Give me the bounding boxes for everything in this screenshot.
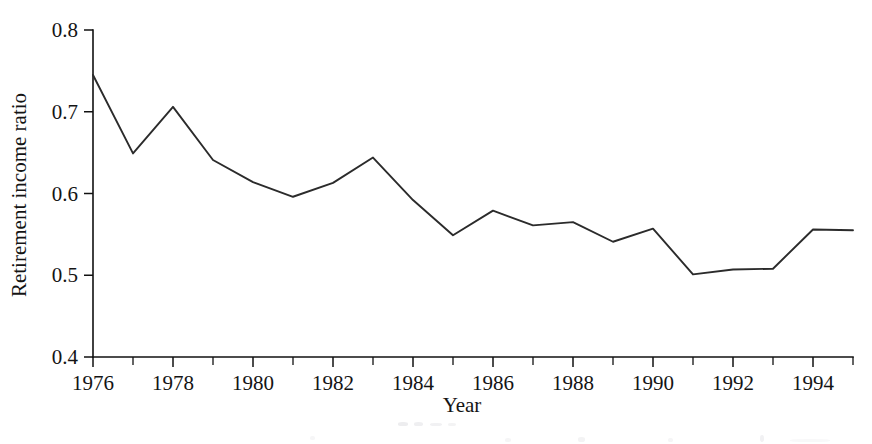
axis-tick-labels: 0.40.50.60.70.81976197819801982198419861… [52, 18, 835, 395]
x-axis-title: Year [443, 393, 482, 417]
y-axis-title: Retirement income ratio [7, 93, 31, 297]
x-tick-label: 1990 [632, 371, 674, 395]
x-tick-label: 1982 [312, 371, 354, 395]
x-tick-label: 1994 [792, 371, 835, 395]
x-tick-label: 1992 [712, 371, 754, 395]
x-tick-label: 1984 [392, 371, 435, 395]
y-tick-label: 0.6 [52, 182, 78, 206]
x-tick-label: 1980 [232, 371, 274, 395]
chart-figure: 0.40.50.60.70.81976197819801982198419861… [0, 0, 872, 444]
y-tick-label: 0.8 [52, 18, 78, 42]
y-tick-label: 0.5 [52, 263, 78, 287]
x-tick-label: 1978 [152, 371, 194, 395]
data-series-line [93, 75, 853, 274]
y-tick-label: 0.7 [52, 100, 78, 124]
x-tick-label: 1988 [552, 371, 594, 395]
x-tick-label: 1976 [72, 371, 114, 395]
retirement-income-ratio-line [93, 75, 853, 274]
y-tick-label: 0.4 [52, 345, 79, 369]
x-tick-label: 1986 [472, 371, 514, 395]
y-axis [84, 30, 93, 357]
chart-plot-area: 0.40.50.60.70.81976197819801982198419861… [0, 0, 872, 444]
x-axis [93, 357, 853, 367]
